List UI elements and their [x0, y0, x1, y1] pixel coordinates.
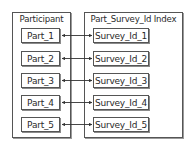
- bidirectional-arrows: [0, 0, 186, 158]
